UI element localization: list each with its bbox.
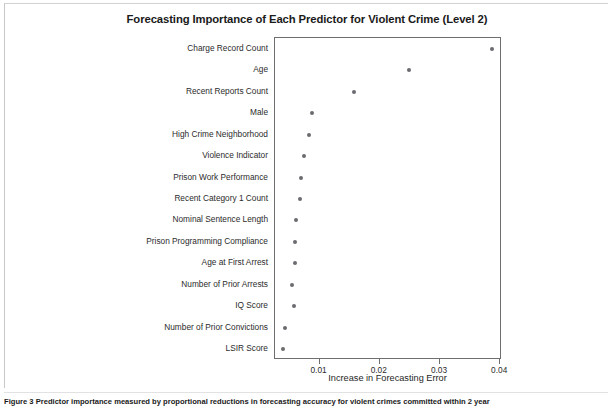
y-axis-label: IQ Score (235, 301, 268, 310)
y-axis-label: Recent Category 1 Count (174, 194, 268, 203)
data-point (290, 283, 294, 287)
x-axis-title: Increase in Forecasting Error (274, 373, 501, 383)
y-axis-label: High Crime Neighborhood (172, 129, 268, 138)
data-point (298, 197, 302, 201)
y-axis-label: Charge Record Count (187, 43, 268, 52)
figure-caption: Figure 3 Predictor importance measured b… (4, 397, 608, 407)
y-axis-label: Prison Programming Compliance (146, 236, 268, 245)
y-axis-label: Prison Work Performance (173, 172, 268, 181)
data-point (293, 261, 297, 265)
x-axis-tick (319, 359, 320, 364)
plot-panel (274, 37, 501, 359)
data-point (283, 326, 287, 330)
y-axis-label: LSIR Score (226, 344, 268, 353)
data-point (352, 90, 356, 94)
data-point (281, 347, 285, 351)
y-axis-label: Age (253, 65, 268, 74)
y-axis-label: Violence Indicator (202, 151, 268, 160)
caption-divider (4, 392, 608, 393)
chart-title: Forecasting Importance of Each Predictor… (5, 13, 609, 25)
data-point (310, 111, 314, 115)
y-axis-label: Male (250, 108, 268, 117)
data-point (302, 154, 306, 158)
data-point (294, 218, 298, 222)
data-point (307, 133, 311, 137)
figure-container: Forecasting Importance of Each Predictor… (4, 3, 608, 388)
y-axis-label: Number of Prior Arrests (181, 279, 268, 288)
x-axis-tick (379, 359, 380, 364)
data-point (490, 47, 494, 51)
y-axis-label: Number of Prior Convictions (164, 322, 268, 331)
data-point (292, 304, 296, 308)
x-axis-tick (439, 359, 440, 364)
data-point (407, 68, 411, 72)
data-point (293, 240, 297, 244)
y-axis-label: Nominal Sentence Length (173, 215, 268, 224)
y-axis-label: Age at First Arrest (202, 258, 268, 267)
data-point (299, 176, 303, 180)
y-axis-labels: Charge Record CountAgeRecent Reports Cou… (5, 37, 268, 359)
y-axis-label: Recent Reports Count (186, 86, 268, 95)
x-axis-tick (499, 359, 500, 364)
